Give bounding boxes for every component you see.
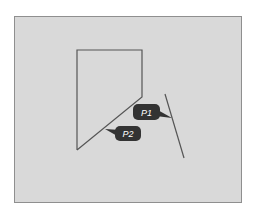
diagram-drawing: P1 P2 [0, 0, 254, 221]
callout-p1-label: P1 [141, 108, 152, 118]
callout-p2: P2 [105, 126, 141, 141]
callout-p1: P1 [133, 104, 172, 120]
diagram-canvas: P1 P2 [0, 0, 254, 221]
slanted-line [165, 94, 184, 158]
callout-p2-label: P2 [122, 129, 133, 139]
